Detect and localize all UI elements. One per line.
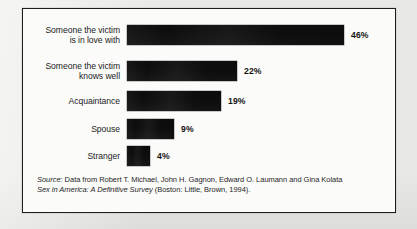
bar <box>127 91 221 111</box>
bar-category-label: Acquaintance <box>23 96 127 106</box>
bar-category-label: Someone the victim knows well <box>23 61 127 82</box>
bar <box>127 119 174 139</box>
bar <box>127 25 344 45</box>
bar-value-label: 46% <box>351 30 369 40</box>
bar-value-label: 19% <box>228 96 246 106</box>
bar-value-label: 4% <box>157 151 170 161</box>
bar-row: Stranger 4% <box>23 143 395 169</box>
bar-category-label: Spouse <box>23 124 127 134</box>
source-label: Source: <box>37 175 63 184</box>
source-publication-details: (Boston: Little, Brown, 1994). <box>153 185 251 194</box>
bar-row: Someone the victim is in love with 46% <box>23 15 395 55</box>
bar-row: Acquaintance 19% <box>23 87 395 115</box>
bar <box>127 146 150 166</box>
source-line-1-text: Data from Robert T. Michael, John H. Gag… <box>63 175 343 184</box>
bar-value-label: 9% <box>181 124 194 134</box>
bar-track: 19% <box>127 87 395 115</box>
bar-track: 46% <box>127 15 395 55</box>
bar-track: 4% <box>127 143 395 169</box>
source-publication-title: Sex in America: A Definitive Survey <box>37 185 153 194</box>
bar-row: Someone the victim knows well 22% <box>23 55 395 87</box>
bar-track: 22% <box>127 55 395 87</box>
source-note: Source: Data from Robert T. Michael, Joh… <box>37 175 383 195</box>
bar-category-label: Stranger <box>23 151 127 161</box>
bar-value-label: 22% <box>244 66 262 76</box>
figure-frame: Someone the victim is in love with 46% S… <box>22 8 396 213</box>
bar-category-label: Someone the victim is in love with <box>23 25 127 46</box>
bar-row: Spouse 9% <box>23 115 395 143</box>
bar <box>127 61 237 81</box>
bar-chart: Someone the victim is in love with 46% S… <box>23 15 395 167</box>
source-line-1: Source: Data from Robert T. Michael, Joh… <box>37 175 383 185</box>
source-line-2: Sex in America: A Definitive Survey (Bos… <box>37 185 383 195</box>
bar-track: 9% <box>127 115 395 143</box>
